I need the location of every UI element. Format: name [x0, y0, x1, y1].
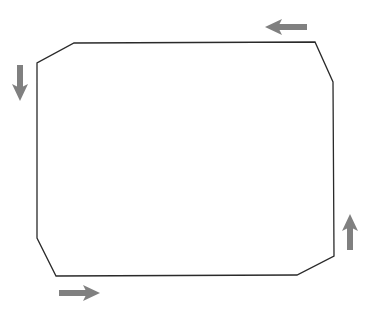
arrows-group	[12, 19, 358, 301]
diagram-canvas	[0, 0, 371, 314]
top-arrow-left-icon	[265, 19, 307, 35]
left-arrow-down-icon	[12, 65, 28, 101]
flow-diagram	[0, 0, 371, 314]
bottom-arrow-right-icon	[59, 285, 100, 301]
chamfered-rectangle-outline	[37, 42, 334, 276]
right-arrow-up-icon	[342, 214, 358, 250]
